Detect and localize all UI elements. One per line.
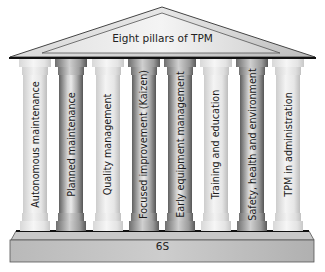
pillar-focused-improvement: Focused improvement (Kaizen) — [128, 59, 160, 231]
pillar-plinth — [201, 221, 231, 231]
pillar-plinth — [273, 221, 303, 231]
pillar-early-equipment-management: Early equipment management — [164, 59, 196, 231]
foundation-label: 6S — [0, 240, 325, 252]
pillar-capital — [236, 59, 268, 67]
pillar-neck — [22, 67, 48, 75]
pillar-quality-management: Quality management — [92, 59, 124, 231]
pillar-tpm-in-administration: TPM in administration — [272, 59, 304, 231]
pillar-plinth — [56, 221, 86, 231]
pillar-label-wrap: Safety, health and environment — [240, 75, 264, 213]
pillar-base-ring — [58, 213, 84, 221]
pillar-label: TPM in administration — [283, 92, 294, 196]
pillar-plinth — [129, 221, 159, 231]
pillar-label: Focused improvement (Kaizen) — [139, 69, 150, 218]
pillar-plinth — [165, 221, 195, 231]
pillar-neck — [58, 67, 84, 75]
pillar-base-ring — [95, 213, 121, 221]
pillar-capital — [272, 59, 304, 67]
pillar-label-wrap: Focused improvement (Kaizen) — [132, 75, 156, 213]
pillar-training-and-education: Training and education — [200, 59, 232, 231]
pillar-label-wrap: TPM in administration — [276, 75, 300, 213]
pillar-label-wrap: Quality management — [96, 75, 120, 213]
pillar-planned-maintenance: Planned maintenance — [55, 59, 87, 231]
pillar-capital — [200, 59, 232, 67]
temple-title: Eight pillars of TPM — [0, 32, 325, 44]
pillar-label-wrap: Planned maintenance — [59, 75, 83, 213]
pillar-capital — [164, 59, 196, 67]
pillar-base-ring — [203, 213, 229, 221]
pillar-label: Autonomous maintenance — [30, 81, 41, 207]
pillar-label: Early equipment management — [175, 71, 186, 218]
pillar-base-ring — [275, 213, 301, 221]
pillar-safety-health-environment: Safety, health and environment — [236, 59, 268, 231]
pillar-label-wrap: Training and education — [204, 75, 228, 213]
pillar-plinth — [237, 221, 267, 231]
pillar-label: Safety, health and environment — [247, 68, 258, 220]
pillar-label-wrap: Autonomous maintenance — [23, 75, 47, 213]
pillar-label-wrap: Early equipment management — [168, 75, 192, 213]
pillar-label: Training and education — [211, 89, 222, 199]
pillar-base-ring — [22, 213, 48, 221]
pillar-capital — [128, 59, 160, 67]
pillar-capital — [55, 59, 87, 67]
pillar-autonomous-maintenance: Autonomous maintenance — [19, 59, 51, 231]
pillar-capital — [19, 59, 51, 67]
pillar-label: Quality management — [103, 93, 114, 195]
pillar-capital — [92, 59, 124, 67]
pillar-neck — [95, 67, 121, 75]
pillar-label: Planned maintenance — [66, 92, 77, 196]
pillar-plinth — [20, 221, 50, 231]
pillar-neck — [275, 67, 301, 75]
tpm-temple-diagram: Eight pillars of TPM Autonomous maintena… — [0, 0, 325, 272]
pillar-neck — [203, 67, 229, 75]
pillar-plinth — [93, 221, 123, 231]
